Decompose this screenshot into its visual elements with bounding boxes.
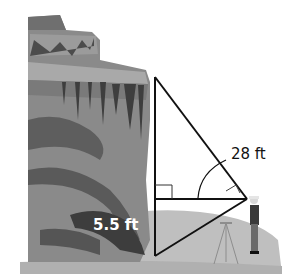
hypotenuse-label: 28 ft: [231, 147, 266, 162]
instrument-height-label: 5.5 ft: [93, 218, 139, 233]
right-angle-mark-left: [155, 185, 172, 199]
diagram-canvas: [0, 0, 295, 274]
hypotenuse-upper: [155, 77, 247, 199]
